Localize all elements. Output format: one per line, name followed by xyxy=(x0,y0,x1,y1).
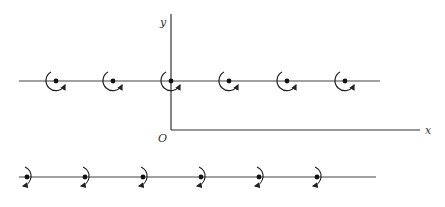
point-dot xyxy=(83,175,88,180)
axes: y x O xyxy=(158,14,432,145)
point-dot xyxy=(199,175,204,180)
point-dot xyxy=(285,79,290,84)
point-dot xyxy=(257,175,262,180)
point-dot xyxy=(25,175,30,180)
lower-row xyxy=(19,167,376,186)
origin-label: O xyxy=(158,132,167,145)
point-dot xyxy=(169,79,174,84)
point-dot xyxy=(227,79,232,84)
y-axis-label: y xyxy=(159,16,167,29)
x-axis-label: x xyxy=(425,124,432,137)
point-dot xyxy=(343,79,348,84)
point-dot xyxy=(54,79,59,84)
point-dot xyxy=(141,175,146,180)
upper-row xyxy=(19,72,380,91)
point-dot xyxy=(315,175,320,180)
point-dot xyxy=(111,79,116,84)
rotation-diagram: y x O xyxy=(0,0,445,207)
